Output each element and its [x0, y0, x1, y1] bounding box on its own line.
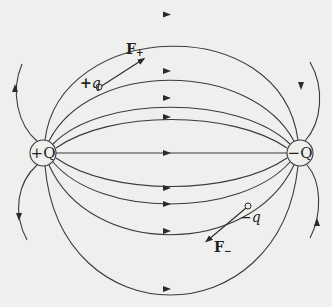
arrowhead-icon — [314, 218, 320, 226]
negative-source-charge: −Q — [287, 140, 313, 166]
arrowhead-icon — [163, 228, 171, 234]
arrowhead-icon — [163, 12, 171, 18]
arrowhead-icon — [16, 213, 22, 221]
field-diagram: +Q −Q +q F+ −q F− — [0, 0, 332, 307]
field-line-right-in-top — [305, 62, 320, 141]
field-line-left-down — [19, 165, 37, 240]
field-line-bottom-3 — [53, 162, 290, 204]
field-line-top-4 — [56, 120, 287, 149]
field-line-top-3 — [53, 107, 290, 144]
arrowhead-icon — [163, 201, 171, 207]
arrowhead-icon — [163, 185, 171, 191]
arrowhead-icon — [298, 82, 304, 90]
field-line-right-out-bottom — [307, 165, 319, 238]
field-line-top-outer — [45, 46, 298, 140]
arrowhead-icon — [163, 68, 171, 74]
negative-test-charge: −q F− — [208, 203, 261, 256]
force-label-positive: F+ — [126, 41, 144, 58]
positive-charge-label: +Q — [31, 144, 56, 162]
negative-charge-label: −Q — [288, 144, 313, 162]
diagram-canvas: +Q −Q +q F+ −q F− — [0, 0, 332, 307]
field-line-left-up — [16, 64, 37, 141]
arrowhead-icon — [163, 95, 171, 101]
arrowhead-icon — [163, 286, 171, 292]
field-lines — [16, 46, 319, 295]
arrowhead-icon — [163, 150, 171, 156]
arrowheads — [12, 12, 320, 293]
positive-test-label: +q — [80, 75, 101, 91]
negative-test-label: −q — [240, 209, 261, 225]
positive-source-charge: +Q — [30, 140, 56, 166]
field-line-bottom-4 — [56, 158, 287, 187]
force-label-negative: F− — [214, 239, 232, 256]
arrowhead-icon — [12, 84, 18, 92]
